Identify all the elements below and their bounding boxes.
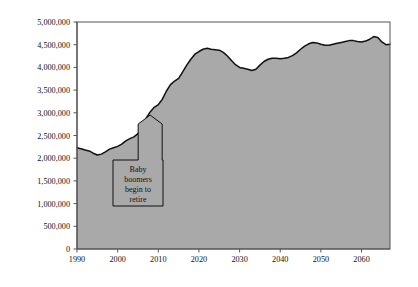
x-axis-tick-label: 2020 xyxy=(191,255,207,264)
y-axis-tick-label: 0 xyxy=(66,245,70,254)
chart-container: 0500,0001,000,0001,500,0002,000,0002,500… xyxy=(0,0,418,287)
y-axis: 0500,0001,000,0001,500,0002,000,0002,500… xyxy=(37,18,77,254)
y-axis-tick-label: 4,000,000 xyxy=(37,63,70,72)
y-axis-tick-label: 3,500,000 xyxy=(37,86,70,95)
annotation-line-2: boomers xyxy=(124,175,152,184)
x-axis-tick-label: 2050 xyxy=(313,255,329,264)
x-axis-tick-label: 2030 xyxy=(231,255,247,264)
x-axis: 19902000201020202030204020502060 xyxy=(69,249,390,264)
annotation-line-3: begin to xyxy=(125,185,151,194)
y-axis-tick-label: 2,500,000 xyxy=(37,132,70,141)
y-axis-tick-label: 1,500,000 xyxy=(37,177,70,186)
x-axis-tick-label: 2040 xyxy=(272,255,288,264)
x-axis-tick-label: 1990 xyxy=(69,255,85,264)
annotation-line-4: retire xyxy=(130,195,147,204)
y-axis-tick-label: 5,000,000 xyxy=(37,18,70,27)
x-axis-tick-label: 2010 xyxy=(150,255,166,264)
x-axis-tick-label: 2060 xyxy=(353,255,369,264)
y-axis-tick-label: 1,000,000 xyxy=(37,200,70,209)
y-axis-tick-label: 2,000,000 xyxy=(37,154,70,163)
y-axis-tick-label: 4,500,000 xyxy=(37,41,70,50)
y-axis-tick-label: 3,000,000 xyxy=(37,109,70,118)
population-area-chart: 0500,0001,000,0001,500,0002,000,0002,500… xyxy=(0,0,418,287)
annotation-line-1: Baby xyxy=(130,165,147,174)
x-axis-tick-label: 2000 xyxy=(109,255,125,264)
y-axis-tick-label: 500,000 xyxy=(43,222,70,231)
